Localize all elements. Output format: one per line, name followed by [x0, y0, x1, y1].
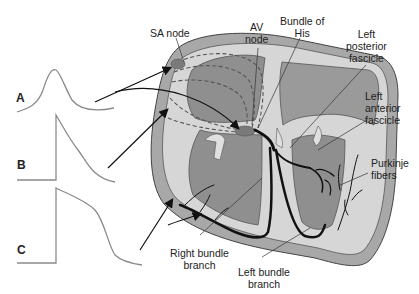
label-left-posterior-fascicle: Left posterior fascicle: [346, 28, 387, 64]
arrow-c-to-rv-wall: [140, 200, 172, 250]
label-purkinje-fibers: Purkinje fibers: [371, 157, 409, 181]
trace-a-sa-node: [17, 70, 114, 112]
trace-label-a: A: [16, 91, 25, 105]
cardiac-conduction-diagram: A B C SA node AV node Bundle of His Left…: [0, 0, 419, 294]
trace-label-b: B: [17, 158, 26, 172]
label-bundle-of-his: Bundle of His: [280, 15, 324, 39]
label-av-node: AV node: [245, 21, 268, 45]
heart: [151, 33, 398, 265]
label-left-bundle-branch: Left bundle branch: [238, 266, 290, 290]
trace-label-c: C: [17, 243, 26, 257]
trace-c-ventricular: [17, 188, 142, 265]
label-left-anterior-fascicle: Left anterior fascicle: [365, 90, 401, 126]
label-sa-node: SA node: [150, 27, 190, 39]
label-right-bundle-branch: Right bundle branch: [170, 247, 229, 271]
sa-node: [171, 59, 185, 69]
action-potential-traces: [17, 70, 142, 265]
trace-b-atrial: [17, 115, 115, 182]
